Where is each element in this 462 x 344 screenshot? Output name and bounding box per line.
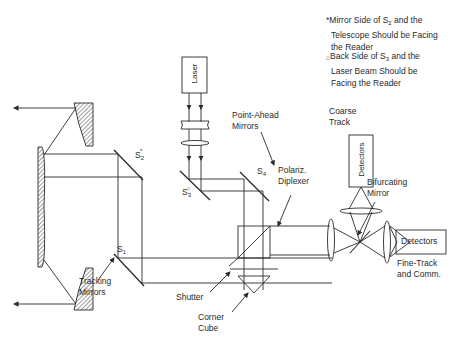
label-bifurcating-mirror: BifurcatingMirror — [367, 177, 407, 199]
fine-detectors-label: Detectors — [401, 236, 437, 247]
label-coarse-track: CoarseTrack — [329, 106, 356, 128]
mirror-s1 — [114, 254, 144, 286]
label-shutter: Shutter — [176, 292, 203, 303]
lens-coarse — [340, 208, 382, 214]
label-s3: S3△ — [182, 187, 194, 201]
secondary-mirror — [38, 147, 45, 267]
note-back-side: △Back Side of S3 and the Laser Beam Shou… — [326, 50, 420, 89]
label-tracking-mirrors: TrackingMirrors — [79, 276, 111, 298]
label-point-ahead-mirrors: Point-AheadMirrors — [232, 110, 279, 132]
label-polariz-diplexer: Polariz.Diplexer — [278, 165, 309, 187]
label-fine-track: Fine-Trackand Comm. — [397, 258, 441, 280]
corner-cube — [238, 276, 270, 293]
label-corner-cube: CornerCube — [198, 312, 224, 334]
concave-lens — [181, 121, 209, 129]
coarse-detectors-label: Detectors — [357, 135, 366, 185]
note-mirror-side: *Mirror Side of S2 and the Telescope Sho… — [326, 14, 438, 53]
lens-fine — [384, 221, 391, 263]
label-s1: S1 — [117, 244, 126, 258]
label-s4: S4 — [257, 166, 266, 180]
lens-main — [328, 219, 335, 261]
label-s2: S2* — [135, 150, 146, 164]
laser-label: Laser — [190, 59, 199, 89]
convex-lens-laser — [181, 141, 209, 146]
primary-mirror-top — [74, 103, 93, 146]
